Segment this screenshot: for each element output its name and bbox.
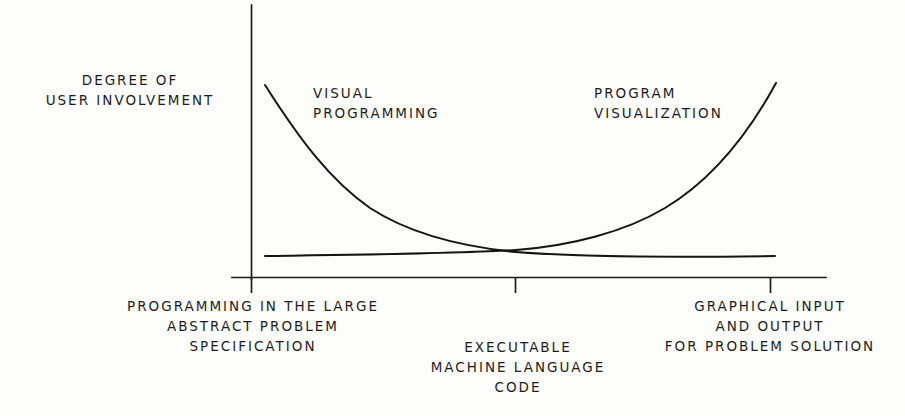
x-tick-label-middle-line-1: EXECUTABLE (398, 337, 638, 357)
annotation-visual-programming: VISUAL PROGRAMMING (313, 83, 440, 123)
annotation-visual-programming-line-1: VISUAL (313, 83, 440, 103)
x-tick-label-left: PROGRAMMING IN THE LARGE ABSTRACT PROBLE… (98, 296, 408, 356)
x-tick-label-right-line-2: AND OUTPUT (640, 316, 900, 336)
figure-canvas: DEGREE OF USER INVOLVEMENT VISUAL PROGRA… (0, 0, 905, 416)
x-tick-label-left-line-3: SPECIFICATION (98, 336, 408, 356)
x-tick-label-right-line-1: GRAPHICAL INPUT (640, 296, 900, 316)
y-axis-label-line-2: USER INVOLVEMENT (30, 90, 230, 110)
annotation-program-visualization-line-1: PROGRAM (594, 83, 723, 103)
x-tick-label-middle-line-3: CODE (398, 377, 638, 397)
x-tick-label-left-line-1: PROGRAMMING IN THE LARGE (98, 296, 408, 316)
x-tick-label-middle-line-2: MACHINE LANGUAGE (398, 357, 638, 377)
x-tick-label-right: GRAPHICAL INPUT AND OUTPUT FOR PROBLEM S… (640, 296, 900, 356)
annotation-visual-programming-line-2: PROGRAMMING (313, 103, 440, 123)
y-axis-label-line-1: DEGREE OF (30, 70, 230, 90)
annotation-program-visualization: PROGRAM VISUALIZATION (594, 83, 723, 123)
y-axis-label: DEGREE OF USER INVOLVEMENT (30, 70, 230, 110)
annotation-program-visualization-line-2: VISUALIZATION (594, 103, 723, 123)
x-tick-label-middle: EXECUTABLE MACHINE LANGUAGE CODE (398, 337, 638, 397)
x-tick-label-right-line-3: FOR PROBLEM SOLUTION (640, 336, 900, 356)
x-tick-label-left-line-2: ABSTRACT PROBLEM (98, 316, 408, 336)
